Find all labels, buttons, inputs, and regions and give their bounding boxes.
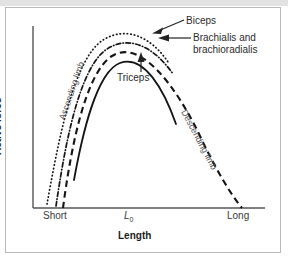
annotation-triceps: Triceps [117,72,149,84]
curve-dashed-envelope [63,52,242,208]
x-tick-label-l0: L0 [124,210,133,224]
leader-brachialis [158,35,191,42]
x-tick-label-long: Long [227,210,249,222]
leader-biceps [152,20,184,34]
annotation-brachialis-line2: brachioradialis [193,44,257,56]
x-tick-label-short: Short [43,210,67,222]
figure-container: Biceps Brachialis and brachioradialis Tr… [0,0,288,265]
annotation-brachialis-line1: Brachialis and [193,32,257,44]
y-axis-title: Active force [0,98,4,155]
annotation-biceps: Biceps [186,15,216,27]
x-tick-label-l0-subscript: 0 [130,216,134,223]
x-axis-title: Length [118,230,151,242]
annotation-brachialis: Brachialis and brachioradialis [193,32,257,55]
